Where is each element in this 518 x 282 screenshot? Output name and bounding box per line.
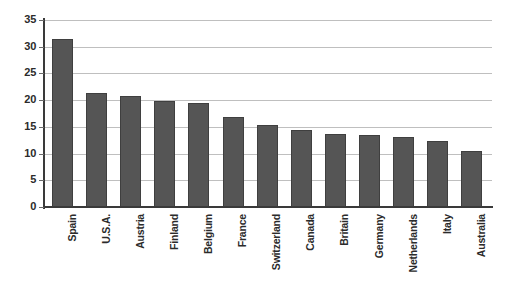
x-axis-tick-label: Belgium xyxy=(203,214,214,254)
y-axis-labels: 05101520253035 xyxy=(0,0,36,282)
y-axis-tick-label: 35 xyxy=(6,14,36,25)
x-axis-tick-label: Germany xyxy=(374,214,385,258)
x-axis-tick-label: Britain xyxy=(339,214,350,246)
y-axis-tick-label: 25 xyxy=(6,67,36,78)
x-axis-tick-label: Australia xyxy=(476,214,487,257)
y-axis-tick-label: 30 xyxy=(6,41,36,52)
x-axis-tick-label: Spain xyxy=(67,214,78,242)
y-axis-tick-label: 0 xyxy=(6,201,36,212)
x-axis-tick-label: Canada xyxy=(305,214,316,251)
x-axis-tick-label: Austria xyxy=(135,214,146,249)
x-axis-labels: SpainU.S.A.AustriaFinlandBelgiumFranceSw… xyxy=(44,0,492,282)
x-axis-tick-label: Finland xyxy=(169,214,180,250)
y-axis-tick-label: 5 xyxy=(6,174,36,185)
y-axis-tick-label: 20 xyxy=(6,94,36,105)
x-axis-tick-label: Netherlands xyxy=(408,214,419,272)
bar-chart-figure: 05101520253035 SpainU.S.A.AustriaFinland… xyxy=(0,0,518,282)
x-axis-tick-label: U.S.A. xyxy=(101,214,112,244)
x-axis-tick-label: Switzerland xyxy=(271,214,282,270)
y-axis-tick-label: 15 xyxy=(6,121,36,132)
x-axis-tick-label: France xyxy=(237,214,248,247)
y-axis-tick-label: 10 xyxy=(6,148,36,159)
x-axis-tick-label: Italy xyxy=(442,214,453,234)
